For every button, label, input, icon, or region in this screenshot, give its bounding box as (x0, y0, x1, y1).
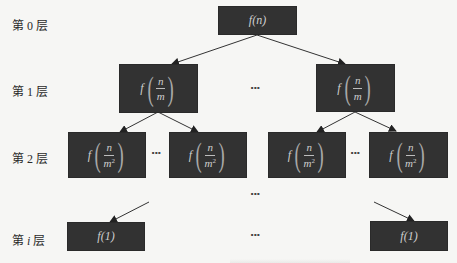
numerator: n (304, 141, 314, 155)
func-name: f (189, 148, 192, 163)
node-label: f(n) (249, 13, 266, 28)
exponent: 2 (212, 157, 216, 165)
ellipsis-level2-left: ··· (151, 147, 161, 160)
denominator-base: m (354, 90, 362, 102)
left-paren: ( (95, 138, 101, 172)
denominator: m2 (303, 156, 314, 169)
edge-to-leaf-right (374, 202, 414, 221)
ellipsis-between-layers: ··· (250, 188, 260, 201)
ellipsis-level2-right: ··· (350, 147, 360, 160)
node-leaf-left: f(1) (67, 222, 145, 251)
numerator: n (406, 141, 416, 155)
ellipsis-leaf: ··· (250, 229, 260, 242)
left-paren: ( (344, 71, 350, 105)
node-level2-b: f ( n m2 ) (169, 132, 247, 178)
formula: f ( n m2 ) (288, 138, 326, 172)
edge-l1a-l2b (158, 112, 198, 132)
node-level1-left: f ( n m ) (119, 64, 198, 113)
caption-cropped (230, 259, 350, 263)
fraction: n m2 (303, 141, 314, 168)
formula: f ( n m ) (337, 71, 374, 105)
right-paren: ) (218, 138, 224, 172)
func-name: f (88, 148, 91, 163)
formula: f ( n m2 ) (189, 138, 227, 172)
edge-to-leaf-left (110, 202, 149, 222)
right-paren: ) (365, 71, 371, 105)
denominator-base: m (157, 90, 165, 102)
denominator: m2 (103, 156, 114, 169)
fraction: n m2 (405, 141, 416, 168)
right-paren: ) (317, 138, 323, 172)
node-level1-right: f ( n m ) (316, 64, 395, 112)
formula: f ( n m ) (140, 72, 177, 106)
numerator: n (353, 74, 363, 88)
node-leaf-right: f(1) (370, 221, 448, 251)
func-name: f (288, 148, 291, 163)
exponent: 2 (111, 157, 115, 165)
node-label: f(1) (97, 229, 114, 244)
right-paren: ) (168, 72, 174, 106)
exponent: 2 (311, 157, 315, 165)
left-paren: ( (295, 138, 301, 172)
left-paren: ( (196, 138, 202, 172)
fraction: n m (156, 75, 166, 102)
exponent: 2 (413, 157, 417, 165)
denominator: m2 (204, 156, 215, 169)
formula: f ( n m2 ) (389, 138, 427, 172)
edge-root-left (172, 35, 257, 64)
edge-l1a-l2a (120, 112, 158, 132)
node-level2-d: f ( n m2 ) (369, 132, 448, 178)
left-paren: ( (396, 138, 402, 172)
edge-root-right (257, 35, 345, 64)
numerator: n (205, 141, 215, 155)
node-level2-a: f ( n m2 ) (68, 132, 146, 178)
right-paren: ) (419, 138, 425, 172)
edge-l1b-l2c (317, 112, 355, 132)
node-level2-c: f ( n m2 ) (268, 132, 346, 178)
node-label: f(1) (400, 229, 417, 244)
numerator: n (104, 141, 114, 155)
right-paren: ) (117, 138, 123, 172)
denominator: m (157, 89, 165, 102)
formula: f ( n m2 ) (88, 138, 126, 172)
edge-l1b-l2d (355, 112, 396, 131)
ellipsis-level1: ··· (250, 82, 260, 95)
func-name: f (389, 148, 392, 163)
denominator-base: m (405, 157, 413, 169)
denominator: m (354, 89, 362, 102)
fraction: n m (353, 74, 363, 101)
numerator: n (156, 75, 166, 89)
denominator: m2 (405, 156, 416, 169)
node-root: f(n) (218, 6, 297, 35)
fraction: n m2 (103, 141, 114, 168)
func-name: f (140, 81, 143, 96)
func-name: f (337, 81, 340, 96)
left-paren: ( (147, 72, 153, 106)
fraction: n m2 (204, 141, 215, 168)
